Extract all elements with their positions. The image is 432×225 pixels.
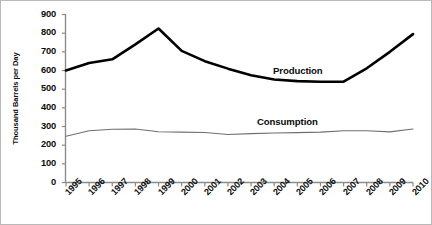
y-tick-label: 800 bbox=[22, 27, 56, 37]
y-tick-label: 400 bbox=[22, 102, 56, 112]
chart-figure: Thousand Barrels per Day 900800700600500… bbox=[0, 0, 432, 225]
axis-lines bbox=[66, 14, 414, 183]
y-tick-label: 500 bbox=[22, 83, 56, 93]
y-tick-label: 0 bbox=[22, 177, 56, 187]
series-label-consumption: Consumption bbox=[257, 116, 318, 127]
y-tick-label: 700 bbox=[22, 46, 56, 56]
y-tick-label: 600 bbox=[22, 65, 56, 75]
data-series-group bbox=[66, 29, 413, 137]
series-line-production bbox=[66, 29, 413, 82]
y-tick-label: 300 bbox=[22, 121, 56, 131]
y-tick-label: 100 bbox=[22, 158, 56, 168]
series-label-production: Production bbox=[273, 65, 323, 76]
y-tick-label: 900 bbox=[22, 9, 56, 19]
series-line-consumption bbox=[66, 129, 413, 136]
y-tick-label: 200 bbox=[22, 139, 56, 149]
